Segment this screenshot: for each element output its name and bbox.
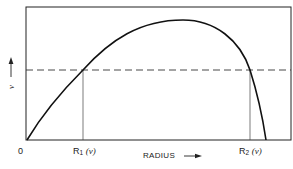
y-axis-label: ν — [6, 85, 16, 89]
r2-tick-label: R2 (ν) — [239, 146, 262, 158]
r2-subscript: 2 — [246, 149, 250, 156]
r1-tick-label: R1 (ν) — [73, 146, 96, 158]
origin-label: 0 — [18, 146, 23, 156]
r1-subscript: 1 — [80, 149, 84, 156]
y-axis-arrow-icon — [9, 57, 14, 64]
r2-arg: (ν) — [252, 146, 262, 156]
x-axis-arrow-icon — [195, 154, 202, 158]
x-axis-label: RADIUS — [143, 151, 175, 161]
r1-arg: (ν) — [86, 146, 96, 156]
nu-curve — [27, 20, 266, 140]
chart-canvas — [0, 0, 293, 169]
